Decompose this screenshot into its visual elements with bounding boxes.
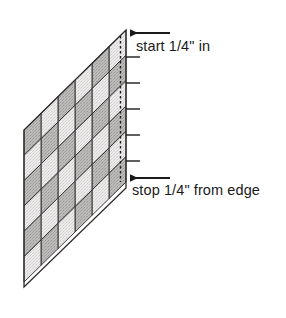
patchwork-grid [24, 30, 126, 287]
diagram-canvas: start 1/4" in stop 1/4" from edge [0, 0, 286, 318]
start-annotation-label: start 1/4" in [136, 39, 210, 54]
stop-annotation-label: stop 1/4" from edge [132, 183, 260, 198]
seam-tick-marks [126, 57, 140, 161]
